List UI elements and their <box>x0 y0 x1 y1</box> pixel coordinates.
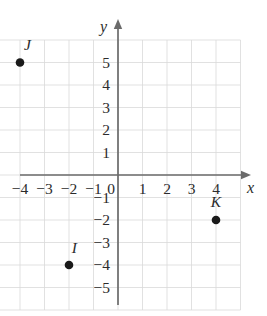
y-axis-name-label: y <box>100 19 114 35</box>
x-axis-name-label: x <box>247 180 261 196</box>
y-axis-tick-label: 3 <box>82 100 110 116</box>
x-axis-tick-label: 1 <box>132 181 154 197</box>
y-axis-tick-label: 1 <box>82 145 110 161</box>
y-axis-arrowhead-icon <box>114 19 122 29</box>
y-axis-tick-label: 4 <box>82 77 110 93</box>
x-axis-tick-label: 3 <box>181 181 203 197</box>
y-axis-tick-label: −4 <box>82 257 110 273</box>
y-axis-tick-label: −5 <box>82 280 110 296</box>
coordinate-plane-figure: −4−3−2−10123454321−1−2−3−4−5xyJIK <box>0 0 267 316</box>
point-label-j: J <box>18 37 36 53</box>
plotted-point-i <box>65 261 74 270</box>
point-label-i: I <box>65 240 83 256</box>
y-axis-tick-label: −3 <box>82 235 110 251</box>
x-axis-tick-label: −3 <box>34 181 56 197</box>
y-axis-tick-label: 2 <box>82 122 110 138</box>
plotted-point-j <box>16 58 25 67</box>
point-label-k: K <box>207 194 225 210</box>
x-axis-tick-label: −4 <box>9 181 31 197</box>
y-axis-tick-label: −1 <box>82 190 110 206</box>
graph-canvas <box>0 0 267 316</box>
x-axis-arrowhead-icon <box>241 171 251 179</box>
x-axis-tick-label: −2 <box>58 181 80 197</box>
y-axis-tick-label: −2 <box>82 212 110 228</box>
plotted-point-k <box>212 216 221 225</box>
x-axis-tick-label: 2 <box>156 181 178 197</box>
y-axis-tick-label: 5 <box>82 55 110 71</box>
